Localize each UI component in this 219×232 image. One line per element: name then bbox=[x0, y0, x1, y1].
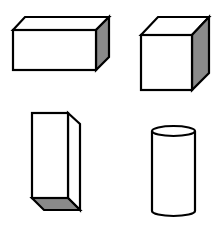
front-face bbox=[32, 113, 68, 198]
cube bbox=[141, 17, 209, 90]
front-face bbox=[141, 35, 192, 90]
cylinder-top-ellipse bbox=[152, 126, 195, 136]
cylinder-body bbox=[152, 131, 195, 216]
solids-diagram bbox=[0, 0, 219, 232]
rectangular-prism-horizontal bbox=[13, 17, 109, 70]
right-face bbox=[68, 113, 80, 210]
cylinder bbox=[152, 126, 195, 216]
front-face bbox=[13, 30, 96, 70]
rectangular-prism-vertical bbox=[32, 113, 80, 210]
top-face bbox=[13, 17, 109, 30]
